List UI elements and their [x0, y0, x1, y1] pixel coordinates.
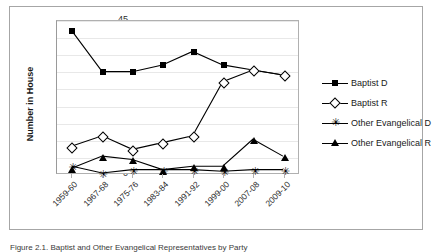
marker-triangle: [190, 164, 198, 171]
marker-square: [130, 69, 136, 75]
marker-square: [100, 69, 106, 75]
marker-asterisk: ✳: [281, 166, 290, 177]
legend-label: Other Evangelical R: [348, 138, 431, 148]
figure-container: Number in House 051015202530354045 ✳✳✳✳✳…: [0, 0, 432, 252]
marker-diamond: [329, 97, 340, 108]
x-tick-mark: [253, 174, 254, 178]
legend-label: Baptist D: [348, 78, 388, 88]
marker-triangle: [159, 168, 167, 175]
marker-triangle: [220, 164, 228, 171]
marker-square: [332, 80, 338, 86]
legend-item[interactable]: Other Evangelical R: [322, 133, 432, 153]
marker-triangle: [99, 154, 107, 161]
marker-square: [191, 49, 197, 55]
legend-item[interactable]: Baptist D: [322, 73, 432, 93]
figure-caption: Figure 2.1. Baptist and Other Evangelica…: [10, 243, 422, 252]
marker-triangle: [250, 137, 258, 144]
marker-triangle: [281, 154, 289, 161]
y-axis-title-wrap: Number in House: [24, 47, 38, 147]
chart-legend: Baptist DBaptist R✳Other Evangelical DOt…: [322, 73, 432, 153]
legend-label: Baptist R: [348, 98, 388, 108]
marker-triangle: [129, 157, 137, 164]
chart-frame: Number in House 051015202530354045 ✳✳✳✳✳…: [9, 6, 423, 230]
y-axis-title: Number in House: [25, 46, 35, 162]
marker-asterisk: ✳: [250, 166, 259, 177]
plot-area: ✳✳✳✳✳✳✳✳: [56, 20, 299, 174]
marker-square: [160, 62, 166, 68]
marker-square: [221, 62, 227, 68]
series-lines: [57, 21, 298, 173]
x-tick-mark: [132, 174, 133, 178]
marker-asterisk: ✳: [331, 117, 340, 128]
legend-key: ✳: [322, 117, 348, 129]
legend-label: Other Evangelical D: [348, 118, 431, 128]
legend-item[interactable]: Baptist R: [322, 93, 432, 113]
x-tick-mark: [223, 174, 224, 178]
legend-item[interactable]: ✳Other Evangelical D: [322, 113, 432, 133]
x-tick-mark: [162, 174, 163, 178]
legend-key: [322, 97, 348, 109]
x-tick-mark: [102, 174, 103, 178]
legend-key: [322, 137, 348, 149]
legend-key: [322, 77, 348, 89]
x-tick-mark: [193, 174, 194, 178]
marker-asterisk: ✳: [129, 166, 138, 177]
x-tick-mark: [284, 174, 285, 178]
x-tick-mark: [71, 174, 72, 178]
marker-triangle: [331, 139, 339, 146]
marker-triangle: [68, 166, 76, 173]
marker-square: [69, 28, 75, 34]
